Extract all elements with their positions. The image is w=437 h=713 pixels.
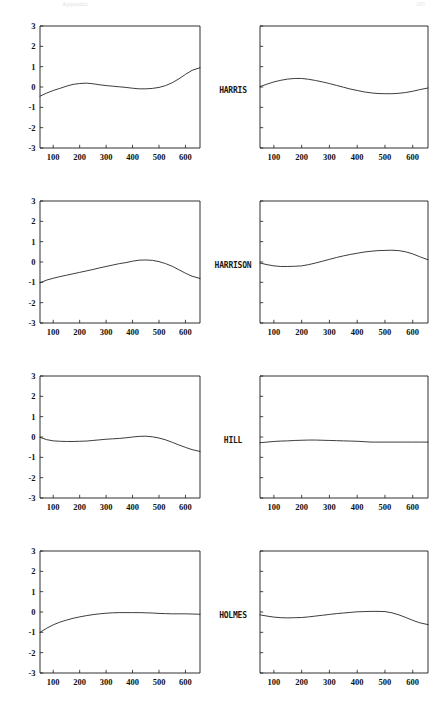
- x-tick-label: 200: [73, 502, 86, 512]
- y-tick-label: 0: [31, 257, 35, 267]
- chart-HOLMES-left: -3-2-10123100200300400500600: [14, 543, 206, 695]
- x-tick-label: 400: [351, 677, 364, 687]
- x-tick-label: 100: [268, 502, 281, 512]
- y-tick-label: 0: [31, 607, 35, 617]
- y-tick-label: 2: [31, 41, 35, 51]
- panel-left-harrison: -3-2-10123100200300400500600: [14, 193, 206, 345]
- x-tick-label: 600: [179, 502, 192, 512]
- x-tick-label: 500: [153, 677, 166, 687]
- series-line-smooth: [260, 250, 428, 266]
- x-tick-label: 400: [126, 677, 139, 687]
- plot-frame: [40, 376, 200, 498]
- x-tick-label: 100: [47, 152, 60, 162]
- panel-left-harris: -3-2-10123100200300400500600: [14, 18, 206, 170]
- x-tick-label: 500: [379, 502, 392, 512]
- plot-frame: [260, 551, 428, 673]
- x-tick-label: 500: [153, 327, 166, 337]
- x-tick-label: 600: [406, 502, 419, 512]
- y-tick-label: 1: [31, 62, 35, 72]
- series-line-smooth: [40, 68, 200, 96]
- series-line-smooth: [40, 436, 200, 451]
- x-tick-label: 600: [406, 677, 419, 687]
- x-tick-label: 400: [351, 327, 364, 337]
- x-tick-label: 300: [100, 677, 113, 687]
- chart-HARRIS-right: 100200300400500600: [248, 18, 434, 170]
- y-tick-label: 1: [31, 412, 35, 422]
- header-page-number: 185: [416, 1, 425, 7]
- y-tick-label: 1: [31, 587, 35, 597]
- x-tick-label: 400: [126, 502, 139, 512]
- y-tick-label: -2: [28, 473, 35, 483]
- x-tick-label: 600: [179, 152, 192, 162]
- chart-HILL-left: -3-2-10123100200300400500600: [14, 368, 206, 520]
- series-line-smooth: [260, 440, 428, 443]
- series-line-smooth: [40, 613, 200, 633]
- x-tick-label: 200: [295, 502, 308, 512]
- x-tick-label: 200: [295, 152, 308, 162]
- panel-row-hill: -3-2-10123100200300400500600100200300400…: [0, 368, 437, 543]
- y-tick-label: -2: [28, 648, 35, 658]
- x-tick-label: 100: [268, 152, 281, 162]
- y-tick-label: -3: [28, 493, 35, 503]
- chart-HOLMES-right: 100200300400500600: [248, 543, 434, 695]
- x-tick-label: 500: [379, 152, 392, 162]
- x-tick-label: 100: [47, 677, 60, 687]
- y-tick-label: 3: [31, 546, 35, 556]
- y-tick-label: -1: [28, 627, 35, 637]
- series-line-smooth: [260, 611, 428, 624]
- x-tick-label: 200: [73, 327, 86, 337]
- plot-frame: [40, 551, 200, 673]
- x-tick-label: 600: [179, 677, 192, 687]
- y-tick-label: 1: [31, 237, 35, 247]
- x-tick-label: 100: [47, 502, 60, 512]
- y-tick-label: 2: [31, 391, 35, 401]
- x-tick-label: 100: [47, 327, 60, 337]
- x-tick-label: 300: [323, 502, 336, 512]
- y-tick-label: -1: [28, 102, 35, 112]
- figure-page: Appendix 185 -3-2-1012310020030040050060…: [0, 0, 437, 713]
- x-tick-label: 600: [406, 152, 419, 162]
- plot-frame: [260, 201, 428, 323]
- x-tick-label: 100: [268, 327, 281, 337]
- header-title: Appendix: [62, 1, 88, 7]
- x-tick-label: 300: [323, 152, 336, 162]
- x-tick-label: 500: [153, 152, 166, 162]
- x-tick-label: 400: [351, 152, 364, 162]
- panel-grid: -3-2-10123100200300400500600100200300400…: [0, 18, 437, 713]
- plot-frame: [260, 376, 428, 498]
- x-tick-label: 600: [406, 327, 419, 337]
- x-tick-label: 100: [268, 677, 281, 687]
- panel-row-harrison: -3-2-10123100200300400500600100200300400…: [0, 193, 437, 368]
- y-tick-label: -3: [28, 143, 35, 153]
- y-tick-label: 3: [31, 196, 35, 206]
- x-tick-label: 400: [351, 502, 364, 512]
- x-tick-label: 500: [153, 502, 166, 512]
- x-tick-label: 200: [295, 327, 308, 337]
- row-label-harrison: HARRISON: [203, 261, 263, 270]
- x-tick-label: 600: [179, 327, 192, 337]
- y-tick-label: -2: [28, 123, 35, 133]
- x-tick-label: 300: [323, 677, 336, 687]
- chart-HARRISON-right: 100200300400500600: [248, 193, 434, 345]
- y-tick-label: -3: [28, 668, 35, 678]
- y-tick-label: -2: [28, 298, 35, 308]
- chart-HARRISON-left: -3-2-10123100200300400500600: [14, 193, 206, 345]
- scan-page-header: Appendix 185: [0, 0, 437, 14]
- panel-right-harrison: 100200300400500600: [248, 193, 434, 345]
- x-tick-label: 500: [379, 327, 392, 337]
- row-label-hill: HILL: [203, 436, 263, 445]
- x-tick-label: 300: [323, 327, 336, 337]
- x-tick-label: 300: [100, 152, 113, 162]
- panel-right-harris: 100200300400500600: [248, 18, 434, 170]
- x-tick-label: 200: [73, 152, 86, 162]
- x-tick-label: 300: [100, 327, 113, 337]
- y-tick-label: 2: [31, 566, 35, 576]
- row-label-harris: HARRIS: [203, 86, 263, 95]
- plot-frame: [40, 201, 200, 323]
- x-tick-label: 500: [379, 677, 392, 687]
- series-line-smooth: [260, 78, 428, 93]
- y-tick-label: -1: [28, 452, 35, 462]
- panel-row-harris: -3-2-10123100200300400500600100200300400…: [0, 18, 437, 193]
- x-tick-label: 200: [295, 677, 308, 687]
- panel-row-holmes: -3-2-10123100200300400500600100200300400…: [0, 543, 437, 713]
